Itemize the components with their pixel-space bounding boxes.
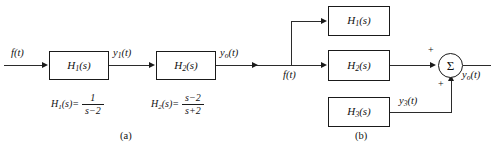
label-input-a: f(t) (11, 47, 24, 58)
label-y3-b: y3(t) (399, 95, 417, 108)
arrow-into-h2-b (321, 62, 327, 68)
arrow-input-stub-b (252, 62, 258, 68)
caption-a: (a) (120, 130, 132, 141)
wire-h3-out-b (390, 112, 452, 113)
label-y1-a: y1(t) (113, 47, 131, 60)
tf-h2-numerator: s−2 (182, 92, 204, 104)
block-h2-b: H2(s) (328, 50, 390, 81)
wire-input-a (4, 65, 44, 66)
tf-h1-lhs: H1(s)= (51, 98, 79, 111)
sigma-symbol: Σ (447, 58, 455, 74)
wire-into-h1-b (291, 21, 323, 22)
wire-branch-riser-b (291, 21, 292, 66)
wire-output-b (463, 65, 491, 66)
tf-h2-lhs: H2(s)= (151, 98, 179, 111)
arrow-y1-a (149, 62, 155, 68)
arrow-into-h1-b (321, 18, 327, 24)
wire-input-b (278, 65, 323, 66)
tf-h2-fraction: s−2 s+2 (182, 92, 204, 116)
wire-h3-riser-b (451, 79, 452, 112)
label-output-b: yo(t) (462, 69, 480, 82)
figure-container: f(t) H1(s) y1(t) H2(s) yo(t) H1(s)= 1 s−… (0, 0, 494, 152)
wire-input-stub-b (255, 65, 278, 66)
tf-h2-denominator: s+2 (182, 104, 204, 117)
block-h1-a: H1(s) (49, 51, 109, 80)
caption-b: (b) (355, 130, 367, 141)
label-output-a: yo(t) (220, 47, 238, 60)
block-h3-b-label: H3(s) (347, 105, 371, 119)
summing-junction-b: Σ (438, 53, 463, 78)
block-h1-b-label: H1(s) (347, 14, 371, 28)
arrow-h2-to-summer-b (430, 62, 436, 68)
tf-h1-numerator: 1 (87, 92, 98, 104)
block-h2-b-label: H2(s) (347, 59, 371, 73)
label-input-b: f(t) (283, 69, 296, 80)
transfer-function-h1: H1(s)= 1 s−2 (51, 92, 104, 116)
tf-h1-fraction: 1 s−2 (82, 92, 104, 116)
block-h3-b: H3(s) (328, 97, 390, 127)
block-h1-b: H1(s) (328, 6, 390, 36)
block-h2-a: H2(s) (156, 51, 216, 80)
wire-h2-to-summer-b (390, 65, 432, 66)
block-h1-a-label: H1(s) (67, 59, 91, 73)
summer-sign-bottom: + (438, 78, 444, 89)
transfer-function-h2: H2(s)= s−2 s+2 (151, 92, 204, 116)
summer-sign-left: + (428, 44, 434, 55)
arrow-input-a (42, 62, 48, 68)
tf-h1-denominator: s−2 (82, 104, 104, 117)
wire-y1-a (109, 65, 151, 66)
block-h2-a-label: H2(s) (174, 59, 198, 73)
